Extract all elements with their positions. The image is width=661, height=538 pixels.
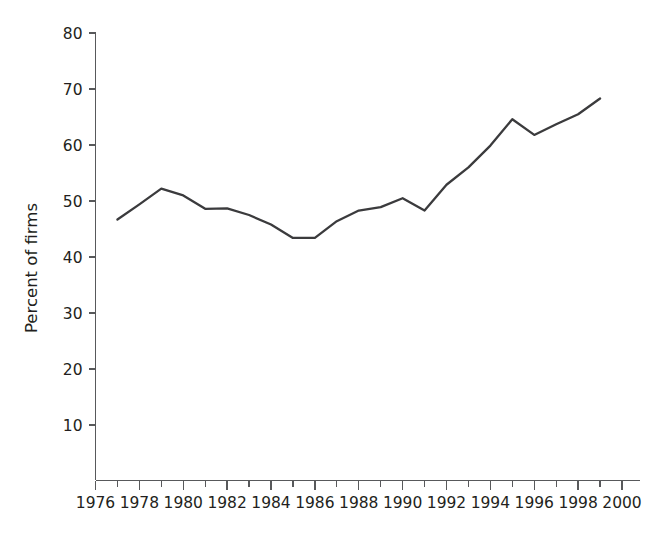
line-chart-figure: 1020304050607080 19761978198019821984198… (0, 0, 661, 538)
y-tick-label-group: 1020304050607080 (63, 25, 83, 435)
y-tick-label-50: 50 (63, 193, 83, 211)
data-series-line-percent-of-firms (117, 99, 600, 238)
x-tick-label-1984: 1984 (251, 494, 290, 512)
x-tick-label-1980: 1980 (164, 494, 203, 512)
x-tick-label-1982: 1982 (207, 494, 246, 512)
x-tick-label-1992: 1992 (427, 494, 466, 512)
x-tick-label-1976: 1976 (76, 494, 115, 512)
x-tick-label-group: 1976197819801982198419861988199019921994… (76, 494, 642, 512)
y-tick-label-30: 30 (63, 305, 83, 323)
y-tick-label-40: 40 (63, 249, 83, 267)
x-tick-label-1994: 1994 (471, 494, 510, 512)
chart-canvas: 1020304050607080 19761978198019821984198… (0, 0, 661, 538)
x-tick-label-1988: 1988 (339, 494, 378, 512)
x-tick-mark-group (96, 481, 623, 490)
y-tick-label-70: 70 (63, 81, 83, 99)
y-tick-mark-group (89, 33, 96, 425)
x-tick-label-1998: 1998 (558, 494, 597, 512)
x-tick-label-1978: 1978 (120, 494, 159, 512)
y-tick-label-60: 60 (63, 137, 83, 155)
y-tick-label-10: 10 (63, 417, 83, 435)
x-tick-label-1986: 1986 (295, 494, 334, 512)
y-tick-label-80: 80 (63, 25, 83, 43)
x-tick-label-1990: 1990 (383, 494, 422, 512)
x-tick-label-2000: 2000 (602, 494, 641, 512)
x-tick-label-1996: 1996 (515, 494, 554, 512)
y-axis-label: Percent of firms (22, 203, 41, 333)
y-tick-label-20: 20 (63, 361, 83, 379)
